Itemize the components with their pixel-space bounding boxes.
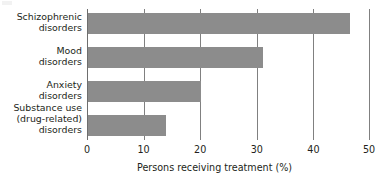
plot-area [87,9,370,140]
gridline-50 [369,9,370,140]
bar-schizophrenic-disorders [88,13,350,34]
x-axis-title: Persons receiving treatment (%) [137,162,292,173]
category-label-anxiety-disorders: Anxiety disorders [0,80,82,102]
bar-mood-disorders [88,47,263,68]
xtick-label-20: 20 [188,144,212,155]
category-label-schizophrenic-disorders: Schizophrenic disorders [0,12,82,34]
scan-artifact [2,1,12,5]
xtick-label-10: 10 [132,144,156,155]
bar-anxiety-disorders [88,81,201,102]
xtick-label-50: 50 [357,144,381,155]
category-label-mood-disorders: Mood disorders [0,46,82,68]
bar-chart: Schizophrenic disorders Mood disorders A… [0,0,385,181]
x-axis-title-container: Persons receiving treatment (%) [0,162,385,173]
bar-substance-use-disorders [88,115,166,136]
xtick-label-30: 30 [245,144,269,155]
xtick-label-0: 0 [75,144,99,155]
category-label-substance-use-disorders: Substance use (drug-related) disorders [0,103,82,135]
xtick-label-40: 40 [301,144,325,155]
